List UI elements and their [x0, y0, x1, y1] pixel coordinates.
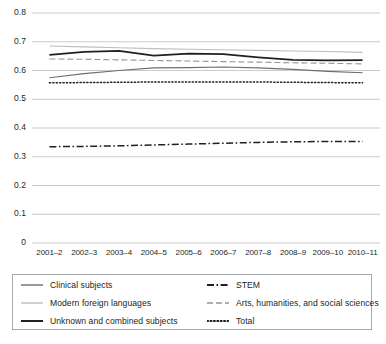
y-tick-label: 0.6	[0, 65, 26, 75]
legend-item: Unknown and combined subjects	[13, 312, 199, 330]
legend-item: Arts, humanities, and social sciences	[199, 294, 373, 312]
y-tick-label: 0	[0, 237, 26, 247]
y-tick-label: 0.5	[0, 93, 26, 103]
y-tick-label: 0.1	[0, 208, 26, 218]
legend-item-label: Arts, humanities, and social sciences	[236, 298, 379, 308]
legend-column-right: STEMArts, humanities, and social science…	[199, 275, 373, 329]
dashdot-black-line-icon	[207, 278, 229, 292]
y-tick-label: 0.2	[0, 180, 26, 190]
plot-area: 0.80.70.60.50.40.30.20.10 2001–22002–320…	[0, 0, 386, 266]
dashed-gray-line-icon	[207, 296, 229, 310]
y-tick-label: 0.4	[0, 122, 26, 132]
plot-canvas	[0, 0, 386, 266]
series-line-5	[49, 82, 362, 83]
legend-item-label: Unknown and combined subjects	[50, 316, 178, 326]
x-tick-label: 2010–11	[342, 248, 384, 257]
legend: Clinical subjectsModern foreign language…	[12, 274, 372, 330]
series-line-3	[49, 142, 362, 147]
legend-item: STEM	[199, 276, 373, 294]
solid-black-line-icon	[21, 314, 43, 328]
y-tick-label: 0.3	[0, 151, 26, 161]
legend-item: Modern foreign languages	[13, 294, 199, 312]
solid-lightgray-line-icon	[21, 296, 43, 310]
legend-item: Total	[199, 312, 373, 330]
y-tick-label: 0.7	[0, 36, 26, 46]
series-line-0	[49, 67, 362, 78]
legend-item: Clinical subjects	[13, 276, 199, 294]
y-tick-label: 0.8	[0, 7, 26, 17]
line-chart-figure: 0.80.70.60.50.40.30.20.10 2001–22002–320…	[0, 0, 386, 344]
legend-item-label: Modern foreign languages	[50, 298, 151, 308]
dotted-black-line-icon	[207, 314, 229, 328]
legend-column-left: Clinical subjectsModern foreign language…	[13, 275, 199, 329]
legend-item-label: Clinical subjects	[50, 280, 112, 290]
legend-item-label: STEM	[236, 280, 260, 290]
solid-gray-line-icon	[21, 278, 43, 292]
legend-item-label: Total	[236, 316, 254, 326]
